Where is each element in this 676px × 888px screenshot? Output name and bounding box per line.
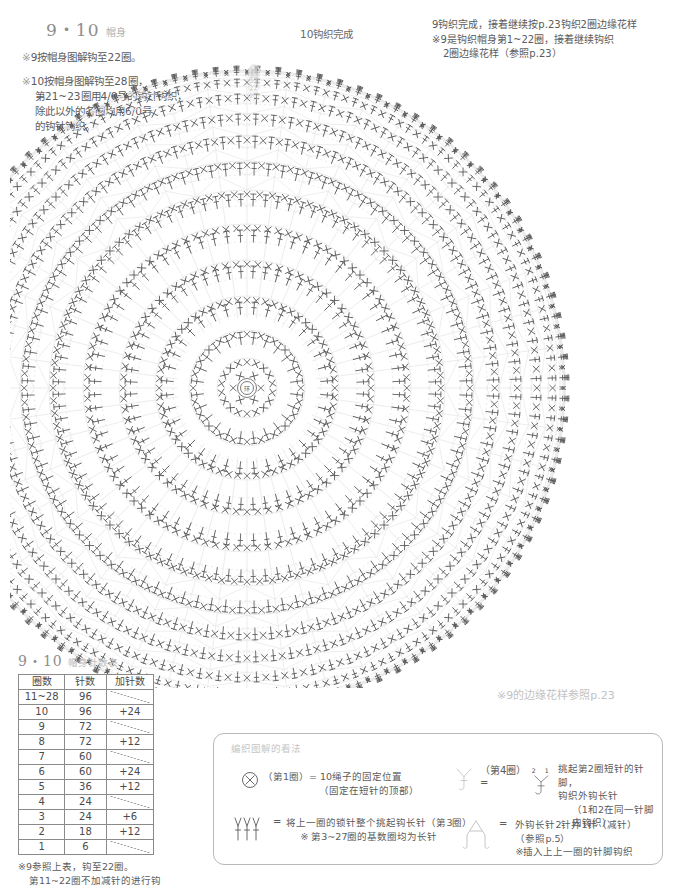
stitch-dc bbox=[393, 392, 405, 398]
cell-stitches: 18 bbox=[65, 825, 106, 840]
stitch-dc bbox=[210, 530, 218, 543]
stitch-dc bbox=[189, 485, 199, 498]
stitch-dc bbox=[237, 601, 243, 613]
stitch-sc bbox=[191, 370, 198, 377]
stitch-sc bbox=[10, 305, 16, 313]
stitch-dc bbox=[36, 306, 49, 315]
cell-stitches: 96 bbox=[65, 690, 106, 705]
stitch-sc bbox=[181, 201, 189, 209]
stitch-dc bbox=[69, 461, 82, 471]
stitch-sc bbox=[307, 145, 314, 152]
stitch-dc bbox=[306, 172, 314, 185]
stitch-sc bbox=[466, 399, 472, 405]
cell-increase bbox=[106, 690, 153, 705]
stitch-dc bbox=[295, 278, 305, 291]
stitch-sc bbox=[56, 334, 63, 341]
stitch-sc bbox=[43, 285, 51, 293]
stitch-dc bbox=[159, 300, 171, 312]
stitch-sc bbox=[473, 207, 481, 215]
stitch-sc bbox=[182, 532, 190, 540]
stitch-dc bbox=[503, 445, 515, 453]
stitch-dc bbox=[171, 146, 179, 159]
stitch-dc bbox=[223, 335, 232, 348]
stitch-sc bbox=[391, 323, 399, 331]
stitch-dc bbox=[238, 194, 244, 206]
stitch-dc bbox=[300, 241, 309, 254]
stitch-sc bbox=[216, 468, 224, 476]
stitch-sc bbox=[25, 193, 33, 201]
stitch-dc bbox=[357, 391, 369, 397]
stitch-dc bbox=[223, 428, 232, 441]
stitch-dc bbox=[63, 510, 76, 521]
stitch-sc bbox=[295, 536, 303, 544]
cell-stitches: 96 bbox=[65, 705, 106, 720]
crochet-chart-svg: 2021222324252627 环 bbox=[10, 28, 676, 688]
stitch-dc bbox=[10, 470, 23, 479]
stitch-dc bbox=[55, 415, 68, 422]
stitch-dc bbox=[129, 279, 141, 291]
stitch-dc bbox=[184, 241, 193, 254]
stitch-dc bbox=[213, 269, 221, 282]
table-row: 872+12 bbox=[19, 735, 154, 750]
stitch-dc bbox=[381, 325, 394, 334]
stitch-dc bbox=[54, 403, 66, 409]
stitch-dc bbox=[90, 365, 103, 372]
stitch-dc bbox=[375, 453, 388, 463]
stitch-sc bbox=[342, 584, 350, 592]
stitch-sc bbox=[84, 374, 90, 380]
stitch-sc bbox=[434, 602, 442, 610]
stitch-sc bbox=[156, 128, 164, 136]
stitch-sc bbox=[388, 133, 396, 141]
stitch-sc bbox=[429, 626, 437, 634]
stitch-dc bbox=[250, 194, 256, 206]
stitch-dc bbox=[194, 364, 207, 373]
stitch-dc bbox=[353, 414, 366, 422]
stitch-sc bbox=[270, 301, 278, 309]
stitch-dc bbox=[465, 199, 476, 209]
cell-increase: +24 bbox=[106, 765, 153, 780]
cell-stitches: 60 bbox=[65, 765, 106, 780]
legend-c-round-label: （第4圈）= bbox=[478, 762, 524, 788]
stitch-dc bbox=[273, 494, 281, 507]
stitch-dc bbox=[460, 392, 472, 398]
stitch-sc bbox=[230, 385, 236, 391]
stitch-dc bbox=[428, 403, 440, 409]
stitch-dc bbox=[385, 582, 396, 595]
chart-stitch-layer bbox=[10, 66, 569, 688]
stitch-dc bbox=[395, 628, 405, 639]
stitch-dc bbox=[425, 159, 435, 170]
stitch-dc bbox=[268, 627, 274, 639]
stitch-dc bbox=[251, 534, 257, 546]
stitch-sc bbox=[173, 123, 180, 130]
stitch-sc bbox=[160, 411, 168, 419]
legend-a-sub: （固定在短针的顶部） bbox=[263, 784, 419, 798]
stitch-dc bbox=[106, 453, 119, 463]
stitch-sc bbox=[419, 154, 427, 162]
stitch-dc bbox=[92, 351, 105, 359]
stitch-sc bbox=[233, 508, 240, 515]
stitch-sc bbox=[60, 446, 68, 454]
stitch-sc bbox=[419, 614, 427, 622]
table-row: 660+24 bbox=[19, 765, 154, 780]
stitch-sc bbox=[120, 396, 127, 403]
stitch-dc bbox=[191, 391, 204, 398]
stitch-dc bbox=[31, 320, 44, 328]
stitch-dc bbox=[182, 121, 190, 133]
stitch-dc bbox=[341, 222, 352, 235]
stitch-sc bbox=[252, 408, 260, 416]
stitch-sc bbox=[473, 560, 481, 568]
stitch-sc bbox=[21, 399, 27, 405]
edge-pattern-reference-text: ※9的边缘花样参照p.23 bbox=[497, 689, 615, 702]
stitch-dc bbox=[197, 526, 206, 539]
stitch-sc bbox=[293, 197, 300, 204]
stitch-sc bbox=[437, 397, 443, 403]
stitch-sc bbox=[298, 385, 304, 391]
stitch-dc bbox=[276, 530, 284, 543]
stitch-sc bbox=[258, 162, 264, 168]
stitch-dc bbox=[393, 379, 405, 385]
stitch-dc bbox=[480, 440, 493, 448]
legend-item-three-dc-in-chain: = 将上一圈的锁针整个挑起钩长针（第3圈） ※ 第3~27圈的基数圈均为长针 bbox=[228, 816, 472, 843]
stitch-sc bbox=[499, 471, 507, 479]
stitch-sc bbox=[304, 236, 312, 244]
stitch-dc bbox=[323, 300, 335, 312]
